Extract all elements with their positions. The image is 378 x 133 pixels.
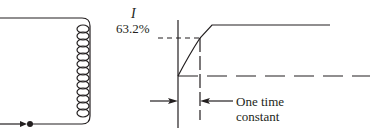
time-constant-annotation: One time constant [236,94,284,124]
current-curve [178,25,330,76]
annotation-line-1: One time [236,94,284,109]
annotation-line-2: constant [236,109,284,124]
current-arrow-icon [20,121,27,127]
percent-level-label: 63.2% [116,21,150,37]
diagram-canvas [0,0,378,133]
inductor-coil-icon [77,25,89,117]
current-axis-label: I [131,6,136,22]
junction-dot [27,121,33,127]
figure: I 63.2% One time constant [0,0,378,133]
circuit [0,18,90,127]
